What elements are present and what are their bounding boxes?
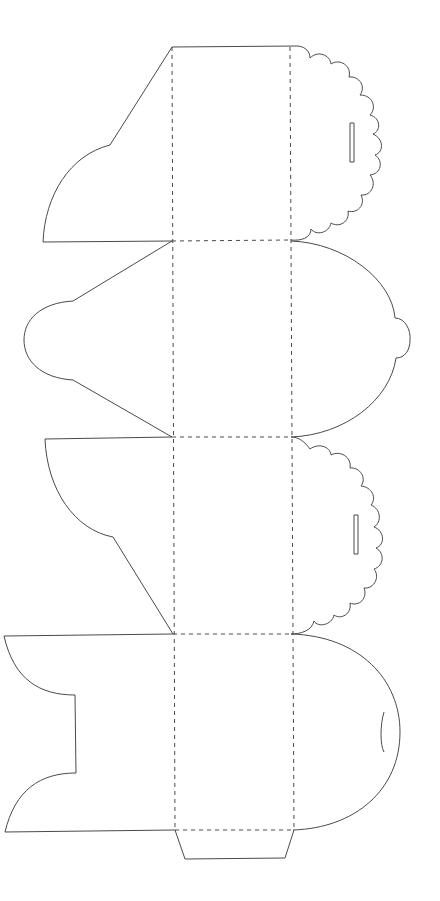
- panel1-top-edge: [172, 46, 298, 47]
- fold-vertical-left: [172, 47, 175, 830]
- panel4-left-flap: [4, 634, 175, 832]
- panel3-scallop-flap: [291, 437, 383, 634]
- fold-vertical-right: [290, 47, 294, 830]
- panel4-right-arc-flap: [291, 634, 400, 830]
- fold-lines: [172, 47, 294, 830]
- slot-2: [354, 515, 358, 554]
- panel2-left-flap: [24, 241, 172, 437]
- panel1-scallop-flap: [291, 46, 382, 240]
- panel2-right-arc-flap: [291, 241, 410, 437]
- slot-1: [350, 123, 354, 162]
- fold-horizontal-1: [172, 240, 291, 241]
- panel1-left-flap: [43, 47, 172, 242]
- cut-lines: [4, 46, 410, 859]
- tuck-slit: [381, 712, 384, 752]
- box-template-dieline: [0, 0, 440, 901]
- bottom-glue-tab: [175, 830, 294, 859]
- panel3-left-flap: [45, 437, 173, 634]
